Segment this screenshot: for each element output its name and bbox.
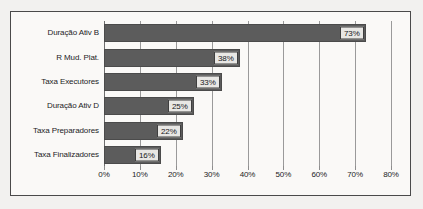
bar-value-label: 33% — [196, 76, 220, 89]
x-tick-label-0%: 0% — [98, 170, 109, 180]
x-tick-mark-10% — [140, 166, 141, 170]
x-tick-label-80%: 80% — [383, 170, 399, 180]
category-label-1: Duração Ativ B — [47, 28, 99, 37]
gridline-80% — [391, 21, 392, 167]
category-label-2: R Mud. Plat. — [56, 53, 99, 62]
category-axis: Duração Ativ BR Mud. Plat.Taxa Executore… — [11, 21, 99, 167]
bar-value-label: 22% — [157, 125, 181, 138]
x-tick-mark-60% — [319, 166, 320, 170]
bar-1[interactable] — [104, 24, 366, 42]
x-tick-label-50%: 50% — [276, 170, 292, 180]
x-axis: 0%10%20%30%40%50%60%70%80% — [104, 170, 391, 184]
bar-value-label: 38% — [214, 52, 238, 65]
x-tick-mark-80% — [391, 166, 392, 170]
x-tick-mark-40% — [248, 166, 249, 170]
category-label-4: Duração Ativ D — [47, 101, 99, 110]
bar-row: 25% — [104, 97, 391, 115]
bar-row: 33% — [104, 73, 391, 91]
x-tick-mark-50% — [283, 166, 284, 170]
x-tick-label-40%: 40% — [240, 170, 256, 180]
chart-screenshot: Duração Ativ BR Mud. Plat.Taxa Executore… — [0, 0, 423, 209]
category-label-6: Taxa Finalizadores — [34, 150, 99, 159]
x-tick-mark-0% — [104, 166, 105, 170]
plot-area: 73%38%33%25%22%16% — [104, 21, 391, 167]
x-tick-mark-20% — [176, 166, 177, 170]
bar-row: 73% — [104, 24, 391, 42]
bar-row: 38% — [104, 49, 391, 67]
bar-value-label: 16% — [135, 149, 159, 162]
bar-row: 16% — [104, 146, 391, 164]
chart-frame: Duração Ativ BR Mud. Plat.Taxa Executore… — [10, 11, 411, 196]
category-label-5: Taxa Preparadores — [33, 126, 99, 135]
x-tick-label-60%: 60% — [311, 170, 327, 180]
bar-row: 22% — [104, 122, 391, 140]
x-tick-label-70%: 70% — [347, 170, 363, 180]
category-label-3: Taxa Executores — [41, 77, 99, 86]
x-tick-label-30%: 30% — [204, 170, 220, 180]
x-tick-mark-30% — [212, 166, 213, 170]
x-tick-label-10%: 10% — [132, 170, 148, 180]
x-tick-mark-70% — [355, 166, 356, 170]
x-tick-label-20%: 20% — [168, 170, 184, 180]
bar-value-label: 25% — [168, 100, 192, 113]
bar-value-label: 73% — [340, 27, 364, 40]
